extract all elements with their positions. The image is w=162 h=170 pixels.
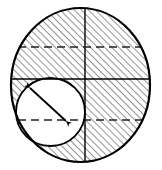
geometric-diagram xyxy=(0,0,162,170)
figure-container xyxy=(0,0,162,170)
hatched-region xyxy=(0,0,162,170)
